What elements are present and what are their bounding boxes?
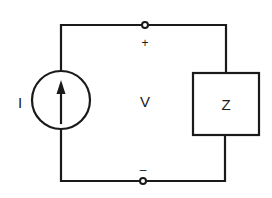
- impedance-label: Z: [221, 96, 230, 113]
- voltage-label: V: [140, 93, 150, 110]
- circuit-diagram: [0, 0, 272, 198]
- plus-polarity-label: +: [141, 36, 148, 50]
- current-arrow-icon: [57, 80, 66, 94]
- minus-polarity-label: –: [140, 163, 147, 177]
- top-terminal-node: [142, 22, 148, 28]
- bottom-terminal-node: [140, 178, 146, 184]
- current-source-label: I: [18, 94, 22, 111]
